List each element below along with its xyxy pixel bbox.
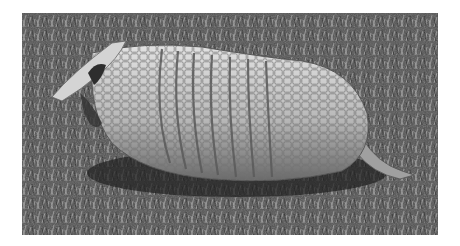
armadillo-illustration (22, 13, 438, 235)
armadillo-photo (22, 13, 438, 235)
